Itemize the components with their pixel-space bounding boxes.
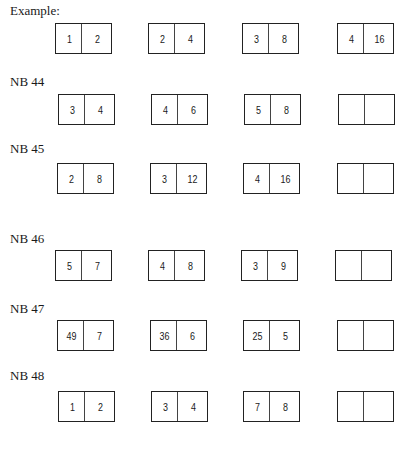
problem-row-nb45: 2 8 3 12 4 16 [0, 163, 407, 194]
number-pair-box: 3 8 [242, 23, 299, 54]
pair-left-value: 1 [58, 24, 82, 53]
pair-right-value: 9 [272, 251, 295, 280]
pair-right-value: 8 [274, 392, 297, 421]
problem-label-nb45: NB 45 [10, 142, 44, 155]
pair-left-value: 3 [154, 392, 178, 421]
pair-left-value: 4 [246, 164, 270, 193]
answer-left-field[interactable] [340, 392, 364, 421]
problem-row-nb44: 3 4 4 6 5 8 [0, 94, 407, 125]
pair-right-value: 12 [181, 164, 204, 193]
pair-left-value: 25 [246, 321, 270, 350]
pair-right-value: 4 [89, 95, 112, 124]
answer-left-field[interactable] [340, 164, 364, 193]
answer-left-field[interactable] [340, 321, 364, 350]
pair-left-value: 7 [246, 392, 270, 421]
number-pair-box: 1 2 [58, 391, 115, 422]
problem-row-nb47: 49 7 36 6 25 5 [0, 320, 407, 351]
pair-right-value: 7 [86, 251, 109, 280]
pair-right-value: 8 [88, 164, 111, 193]
pair-right-value: 5 [274, 321, 297, 350]
number-pair-box: 4 6 [151, 94, 208, 125]
pair-left-value: 4 [151, 251, 175, 280]
number-pair-box: 3 4 [58, 94, 115, 125]
problem-label-nb46: NB 46 [10, 232, 44, 245]
pair-left-value: 36 [153, 321, 177, 350]
answer-right-field[interactable] [368, 321, 391, 350]
number-pair-box: 7 8 [243, 391, 300, 422]
pair-right-value: 2 [89, 392, 112, 421]
answer-pair-box[interactable] [337, 391, 394, 422]
answer-left-field[interactable] [338, 251, 362, 280]
pair-left-value: 1 [61, 392, 85, 421]
example-row: 1 2 2 4 3 8 4 16 [0, 23, 407, 54]
number-pair-box: 5 7 [55, 250, 112, 281]
number-pair-box: 1 2 [55, 23, 112, 54]
answer-right-field[interactable] [368, 392, 391, 421]
pair-right-value: 2 [86, 24, 109, 53]
answer-left-field[interactable] [341, 95, 365, 124]
number-pair-box: 5 8 [244, 94, 301, 125]
number-pair-box: 49 7 [57, 320, 114, 351]
pair-left-value: 2 [151, 24, 175, 53]
problem-label-nb48: NB 48 [10, 369, 44, 382]
pair-right-value: 4 [179, 24, 202, 53]
answer-pair-box[interactable] [338, 94, 395, 125]
pair-left-value: 3 [244, 251, 268, 280]
answer-pair-box[interactable] [337, 320, 394, 351]
pair-right-value: 8 [275, 95, 298, 124]
number-pair-box: 2 8 [57, 163, 114, 194]
pair-left-value: 4 [340, 24, 364, 53]
number-pair-box: 4 16 [337, 23, 394, 54]
pair-left-value: 2 [60, 164, 84, 193]
number-pair-box: 3 9 [241, 250, 298, 281]
number-pair-box: 2 4 [148, 23, 205, 54]
answer-right-field[interactable] [366, 251, 389, 280]
number-pair-box: 25 5 [243, 320, 300, 351]
pair-right-value: 8 [179, 251, 202, 280]
number-pair-box: 36 6 [150, 320, 207, 351]
example-label: Example: [10, 4, 60, 17]
number-pair-box: 3 4 [151, 391, 208, 422]
number-pair-box: 4 8 [148, 250, 205, 281]
pair-right-value: 8 [273, 24, 296, 53]
pair-left-value: 5 [247, 95, 271, 124]
pair-right-value: 7 [88, 321, 111, 350]
answer-pair-box[interactable] [337, 163, 394, 194]
pair-right-value: 4 [182, 392, 205, 421]
pair-right-value: 16 [274, 164, 297, 193]
problem-label-nb44: NB 44 [10, 75, 44, 88]
answer-right-field[interactable] [369, 95, 392, 124]
pair-left-value: 5 [58, 251, 82, 280]
number-pair-box: 4 16 [243, 163, 300, 194]
pair-left-value: 3 [61, 95, 85, 124]
pair-right-value: 6 [182, 95, 205, 124]
answer-pair-box[interactable] [335, 250, 392, 281]
problem-label-nb47: NB 47 [10, 302, 44, 315]
pair-left-value: 4 [154, 95, 178, 124]
pair-left-value: 3 [153, 164, 177, 193]
pair-right-value: 6 [181, 321, 204, 350]
problem-row-nb46: 5 7 4 8 3 9 [0, 250, 407, 281]
pair-left-value: 3 [245, 24, 269, 53]
number-pair-box: 3 12 [150, 163, 207, 194]
problem-row-nb48: 1 2 3 4 7 8 [0, 391, 407, 422]
answer-right-field[interactable] [368, 164, 391, 193]
pair-left-value: 49 [60, 321, 84, 350]
pair-right-value: 16 [368, 24, 391, 53]
